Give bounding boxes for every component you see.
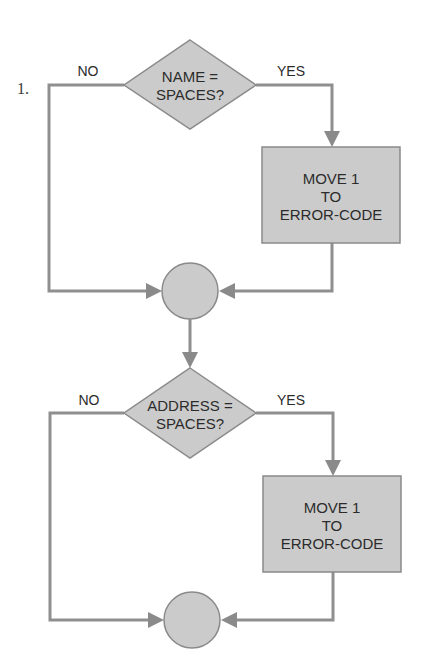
block-name-check: NAME = SPACES? NO YES MOVE 1 TO ERROR-CO… — [49, 40, 400, 319]
arrow-down-icon — [325, 460, 341, 476]
process-out-line — [230, 572, 333, 620]
decision-text-line1: NAME = — [162, 68, 219, 85]
arrow-down-icon — [182, 352, 198, 368]
process-text-line1: MOVE 1 — [304, 499, 361, 516]
no-branch-line — [50, 413, 154, 620]
figure-number: 1. — [17, 80, 29, 97]
decision-text-line2: SPACES? — [156, 86, 224, 103]
process-text-line3: ERROR-CODE — [281, 535, 384, 552]
arrow-down-icon — [324, 131, 340, 147]
yes-branch-line — [256, 85, 332, 136]
decision-text-line1: ADDRESS = — [147, 397, 233, 414]
decision-text-line2: SPACES? — [156, 415, 224, 432]
arrow-right-icon — [148, 612, 164, 628]
process-text-line3: ERROR-CODE — [280, 206, 383, 223]
no-label: NO — [78, 63, 99, 79]
process-out-line — [228, 243, 332, 291]
yes-label: YES — [277, 392, 305, 408]
process-text-line2: TO — [322, 517, 343, 534]
no-branch-line — [49, 85, 152, 291]
no-label: NO — [79, 392, 100, 408]
block-address-check: ADDRESS = SPACES? NO YES MOVE 1 TO ERROR… — [50, 368, 401, 648]
yes-branch-line — [256, 413, 333, 465]
yes-label: YES — [277, 63, 305, 79]
process-text-line2: TO — [321, 188, 342, 205]
connector-circle — [164, 592, 220, 648]
process-text-line1: MOVE 1 — [303, 170, 360, 187]
arrow-right-icon — [146, 283, 162, 299]
arrow-left-icon — [221, 612, 237, 628]
connector-circle — [162, 263, 218, 319]
arrow-left-icon — [219, 283, 235, 299]
flowchart: 1. NAME = SPACES? NO YES MOVE 1 TO ERROR… — [0, 0, 429, 666]
